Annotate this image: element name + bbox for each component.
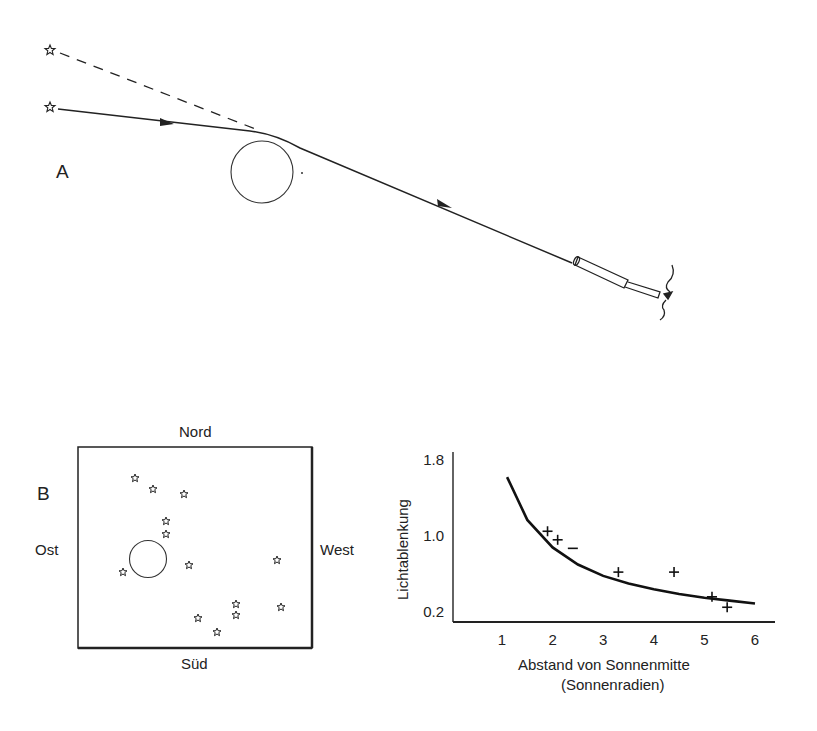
x-axis-label-unit: (Sonnenradien) — [561, 676, 664, 693]
sun-circle — [130, 541, 167, 578]
star-icon — [162, 517, 170, 525]
x-tick-label: 5 — [700, 631, 708, 648]
sun-circle — [231, 141, 293, 203]
star-icon — [277, 603, 285, 611]
star-icon — [232, 611, 240, 619]
y-tick-label: 1.8 — [423, 451, 444, 468]
apparent-direction-line — [60, 53, 258, 130]
x-axis-label: Abstand von Sonnenmitte — [518, 656, 690, 673]
star-icon — [131, 474, 139, 482]
star-icon — [119, 568, 127, 576]
panel-a: A — [45, 45, 673, 320]
y-tick-labels: 1.81.00.2 — [423, 451, 444, 620]
y-tick-label: 0.2 — [423, 603, 444, 620]
x-tick-labels: 123456 — [498, 631, 759, 648]
x-tick-label: 1 — [498, 631, 506, 648]
star-icon — [149, 485, 157, 493]
panel-b: B Nord Süd Ost West — [35, 423, 355, 672]
telescope-icon — [572, 256, 673, 320]
star-icon — [180, 490, 188, 498]
panel-b-label: B — [37, 483, 50, 504]
star-field — [119, 474, 285, 636]
star-icon — [194, 614, 202, 622]
eclipse-light-deflection-figure: A B Nord Süd Ost West 1.81.00.2 123456 L… — [0, 0, 817, 731]
star-icon — [273, 556, 281, 564]
east-label: Ost — [35, 541, 59, 558]
x-tick-label: 6 — [751, 631, 759, 648]
star-icon — [162, 530, 170, 538]
west-label: West — [320, 541, 355, 558]
apparent-star-icon — [45, 45, 55, 55]
star-icon — [232, 600, 240, 608]
theory-curve — [507, 477, 755, 603]
panel-a-label: A — [56, 161, 69, 182]
x-tick-label: 4 — [650, 631, 658, 648]
star-icon — [185, 561, 193, 569]
y-axis-label: Lichtablenkung — [394, 499, 411, 600]
deflection-chart: 1.81.00.2 123456 Lichtablenkung Abstand … — [394, 451, 775, 693]
light-ray-path — [58, 109, 572, 263]
star-icon — [213, 628, 221, 636]
real-star-icon — [45, 102, 55, 112]
x-tick-label: 3 — [599, 631, 607, 648]
north-label: Nord — [179, 423, 212, 440]
y-tick-label: 1.0 — [423, 527, 444, 544]
south-label: Süd — [181, 655, 208, 672]
x-tick-label: 2 — [548, 631, 556, 648]
measurement-points — [543, 526, 733, 612]
